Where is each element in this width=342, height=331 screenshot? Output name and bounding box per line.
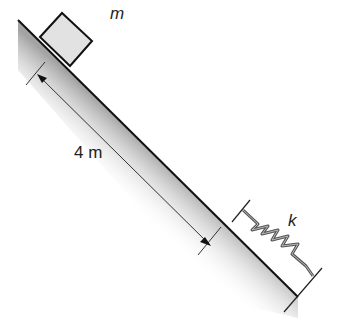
diagram-graphics <box>0 0 342 331</box>
distance-label: 4 m <box>74 143 102 163</box>
spring-constant-label: k <box>288 211 297 231</box>
mass-label: m <box>110 4 124 24</box>
incline-diagram: m 4 m k <box>0 0 342 331</box>
incline-surface <box>18 20 298 318</box>
